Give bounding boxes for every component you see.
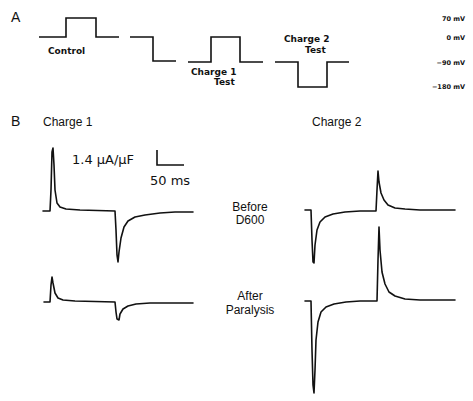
- column-title-charge2: Charge 2: [312, 115, 362, 129]
- voltage-label-minus90: −90 mV: [436, 59, 465, 67]
- figure: A Control Charge 1 Test Charge 2 Test 70…: [0, 0, 473, 401]
- voltage-label-minus180: −180 mV: [432, 83, 465, 91]
- control-label: Control: [48, 46, 85, 56]
- charge1-label-line1: Charge 1: [191, 67, 236, 77]
- row-label-after-line1: After: [237, 289, 262, 303]
- charge1-label-line2: Test: [214, 77, 235, 87]
- conditioning-protocol: [130, 37, 176, 61]
- control-protocol: [39, 18, 119, 37]
- scale-current-label: 1.4 μA/μF: [72, 152, 134, 167]
- scale-time-label: 50 ms: [150, 173, 190, 188]
- panel-b-letter: B: [11, 113, 20, 129]
- charge2-protocol: [275, 62, 349, 87]
- voltage-label-0: 0 mV: [446, 34, 465, 42]
- row-label-before-line2: D600: [236, 213, 265, 227]
- panel-a-letter: A: [11, 9, 21, 25]
- trace-charge1-after: [44, 277, 193, 320]
- scale-bar: [157, 150, 184, 165]
- column-title-charge1: Charge 1: [43, 115, 93, 129]
- row-label-after-line2: Paralysis: [226, 303, 275, 317]
- charge2-label-line1: Charge 2: [284, 34, 329, 44]
- charge2-label-line2: Test: [305, 45, 326, 55]
- row-label-before-line1: Before: [232, 200, 268, 214]
- charge1-protocol: [188, 37, 263, 62]
- trace-charge2-after: [305, 227, 455, 393]
- voltage-label-70: 70 mV: [442, 15, 465, 23]
